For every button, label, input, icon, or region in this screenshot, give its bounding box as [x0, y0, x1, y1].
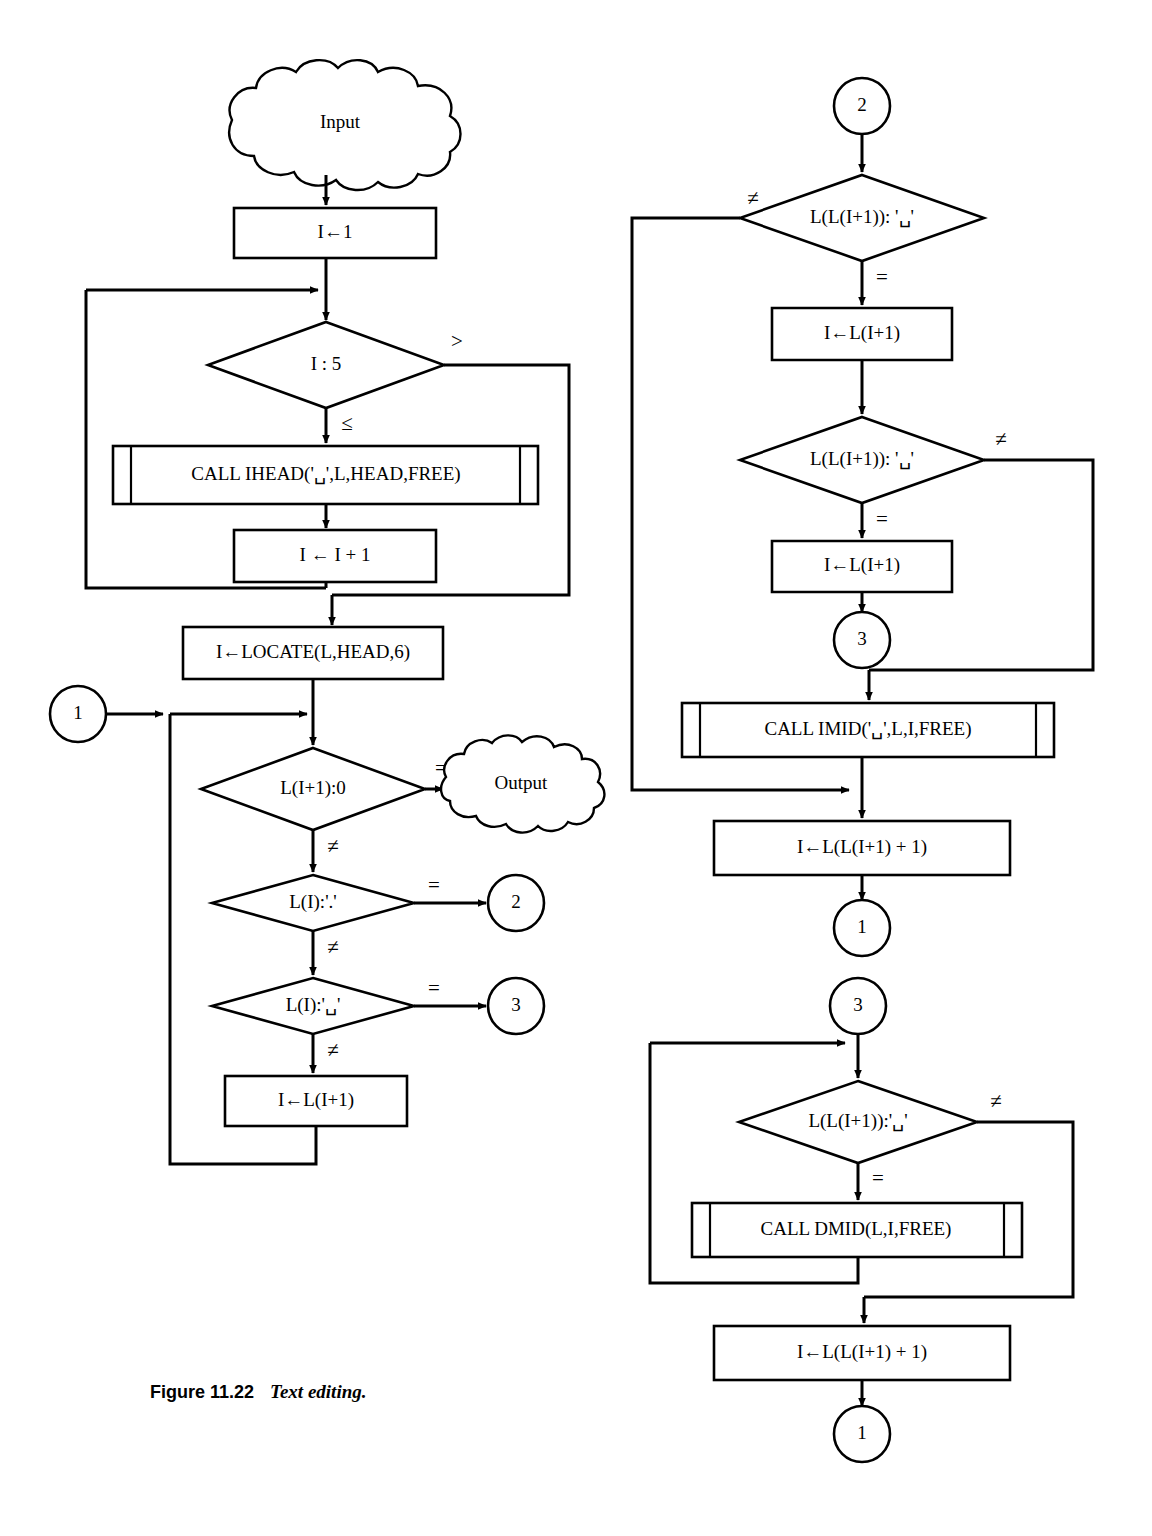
- connector-3-target: 3: [488, 978, 544, 1034]
- decision-period-label: L(I):'.': [289, 891, 336, 913]
- connector-3-mid-label: 3: [857, 628, 867, 649]
- connector-3-entry: 3: [830, 978, 886, 1034]
- increment-box-label: I ← I + 1: [300, 544, 371, 565]
- right-decision-2-eq-label: =: [876, 507, 888, 531]
- locate-box-label: I←LOCATE(L,HEAD,6): [216, 641, 410, 663]
- bottom-decision: L(L(I+1)):'␣': [739, 1081, 977, 1163]
- connector-3-target-label: 3: [511, 994, 521, 1015]
- bottom-decision-eq-label: =: [872, 1166, 884, 1190]
- connector-2-entry: 2: [834, 78, 890, 134]
- decision-end-of-list-label: L(I+1):0: [280, 777, 346, 799]
- right-assign-1-label: I←L(I+1): [824, 322, 900, 344]
- input-cloud-label: Input: [320, 111, 361, 132]
- connector-1-exit-bottom-label: 1: [857, 1422, 867, 1443]
- right-decision-1-ne-label: ≠: [747, 186, 759, 210]
- figure-caption-title: Text editing.: [270, 1381, 366, 1402]
- call-imid-label: CALL IMID('␣',L,I,FREE): [764, 718, 971, 740]
- right-decision-2-label: L(L(I+1)): '␣': [810, 448, 914, 470]
- decision-i-5-label: I : 5: [311, 353, 342, 374]
- right-decision-1-label: L(L(I+1)): '␣': [810, 206, 914, 228]
- advance-box: I←L(I+1): [225, 1076, 407, 1126]
- bottom-decision-ne-label: ≠: [990, 1089, 1002, 1113]
- right-assign-3: I←L(L(I+1) + 1): [714, 821, 1010, 875]
- decision-period-ne-label: ≠: [327, 935, 339, 959]
- flowchart-svg: Input I←1 I : 5 > ≤ CALL IHEAD('␣',L,HEA…: [0, 0, 1152, 1536]
- call-dmid-box: CALL DMID(L,I,FREE): [692, 1203, 1022, 1257]
- decision-period: L(I):'.': [212, 875, 414, 931]
- right-decision-1: L(L(I+1)): '␣': [740, 175, 984, 261]
- decision-i-5: I : 5: [208, 322, 444, 408]
- connector-2-entry-label: 2: [857, 94, 867, 115]
- locate-box: I←LOCATE(L,HEAD,6): [183, 627, 443, 679]
- right-decision-1-eq-label: =: [876, 265, 888, 289]
- connector-1-exit-top: 1: [834, 900, 890, 956]
- bottom-assign-label: I←L(L(I+1) + 1): [797, 1341, 927, 1363]
- advance-box-label: I←L(I+1): [278, 1089, 354, 1111]
- call-imid-box: CALL IMID('␣',L,I,FREE): [682, 703, 1054, 757]
- right-assign-2-label: I←L(I+1): [824, 554, 900, 576]
- call-dmid-label: CALL DMID(L,I,FREE): [761, 1218, 952, 1240]
- output-cloud: Output: [441, 735, 604, 832]
- right-decision-2: L(L(I+1)): '␣': [740, 417, 984, 503]
- decision-blank-ne-label: ≠: [327, 1038, 339, 1062]
- decision-blank-eq-label: =: [428, 976, 440, 1000]
- connector-2-target-label: 2: [511, 891, 521, 912]
- decision-i-5-yes-label: ≤: [341, 411, 353, 435]
- connector-3-entry-label: 3: [853, 994, 863, 1015]
- connector-1-exit-top-label: 1: [857, 916, 867, 937]
- init-box: I←1: [234, 208, 436, 258]
- call-ihead-label: CALL IHEAD('␣',L,HEAD,FREE): [191, 463, 460, 485]
- connector-2-target: 2: [488, 875, 544, 931]
- connector-1-exit-bottom: 1: [834, 1406, 890, 1462]
- bottom-assign-box: I←L(L(I+1) + 1): [714, 1326, 1010, 1380]
- decision-end-of-list: L(I+1):0: [201, 748, 425, 830]
- increment-box: I ← I + 1: [234, 530, 436, 582]
- connector-3-mid: 3: [834, 612, 890, 668]
- input-cloud: Input: [229, 60, 460, 190]
- init-box-label: I←1: [318, 221, 353, 242]
- right-assign-2: I←L(I+1): [772, 541, 952, 592]
- call-ihead-box: CALL IHEAD('␣',L,HEAD,FREE): [113, 446, 538, 504]
- figure-canvas: Input I←1 I : 5 > ≤ CALL IHEAD('␣',L,HEA…: [0, 0, 1152, 1536]
- decision-period-eq-label: =: [428, 873, 440, 897]
- output-cloud-label: Output: [495, 772, 549, 793]
- figure-caption-label: Figure 11.22: [150, 1382, 254, 1402]
- connector-1-entry: 1: [50, 686, 106, 742]
- right-assign-3-label: I←L(L(I+1) + 1): [797, 836, 927, 858]
- figure-caption: Figure 11.22Text editing.: [150, 1381, 366, 1403]
- right-assign-1: I←L(I+1): [772, 308, 952, 360]
- decision-blank: L(I):'␣': [212, 978, 414, 1034]
- decision-end-ne-label: ≠: [327, 834, 339, 858]
- decision-i-5-no-label: >: [451, 329, 463, 353]
- bottom-decision-label: L(L(I+1)):'␣': [808, 1110, 907, 1132]
- decision-blank-label: L(I):'␣': [286, 994, 341, 1016]
- right-decision-2-ne-label: ≠: [995, 427, 1007, 451]
- connector-1-entry-label: 1: [73, 702, 83, 723]
